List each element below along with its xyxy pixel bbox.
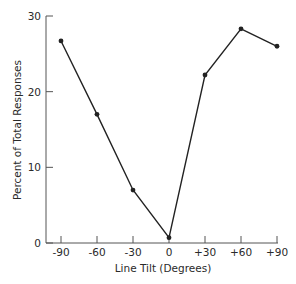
x-tick-label: +60 [230,246,252,258]
x-tick-label: -30 [124,246,141,258]
x-tick-label: -90 [52,246,69,258]
data-point-marker [167,235,172,240]
data-point-marker [131,188,136,193]
x-tick-label: +90 [266,246,288,258]
data-line [61,29,277,238]
data-point-marker [239,26,244,31]
y-tick-label: 30 [28,10,41,22]
data-point-marker [59,39,64,44]
y-tick-label: 0 [34,237,41,249]
y-tick-label: 20 [28,86,41,98]
data-markers [59,26,280,240]
y-ticks: 0102030 [28,10,53,249]
data-point-marker [275,44,280,49]
x-tick-label: +30 [194,246,216,258]
line-chart: 0102030 -90-60-300+30+60+90 Percent of T… [0,0,296,284]
y-axis-label: Percent of Total Responses [11,60,23,200]
x-tick-label: -60 [88,246,105,258]
data-point-marker [203,73,208,78]
x-tick-label: 0 [166,246,173,258]
x-axis-label: Line Tilt (Degrees) [115,262,211,274]
y-tick-label: 10 [28,161,41,173]
data-point-marker [95,112,100,117]
